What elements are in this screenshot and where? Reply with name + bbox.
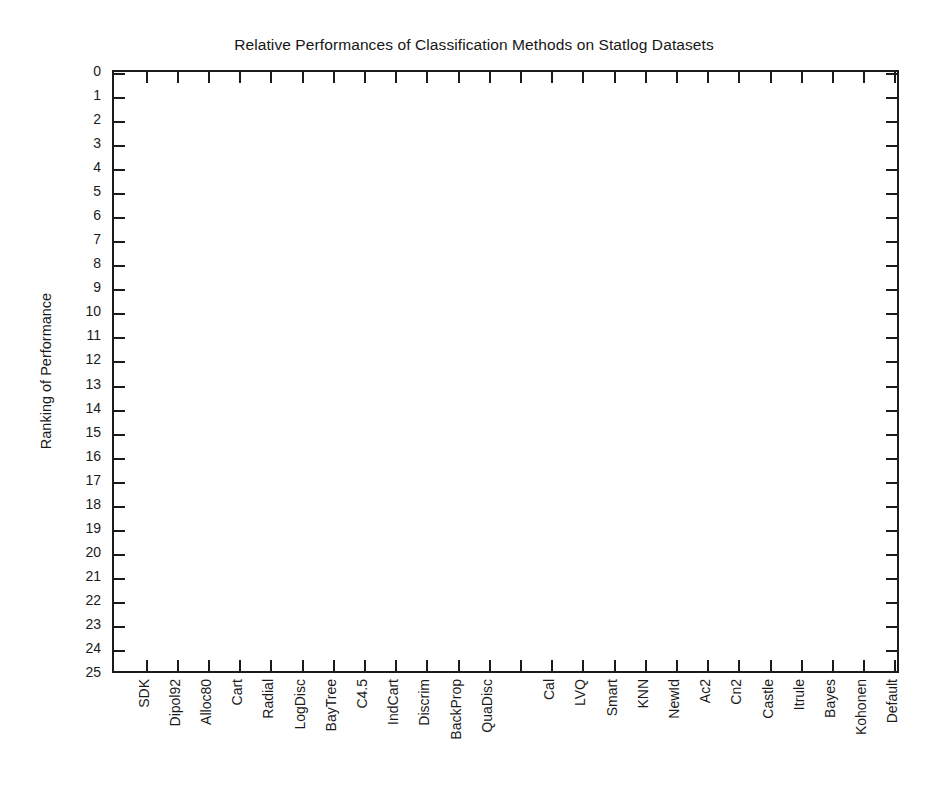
y-axis-tick-label: 5 (93, 184, 101, 198)
x-axis-tick-label: Kohonen (854, 679, 868, 735)
x-axis-tick-top (146, 72, 148, 83)
x-axis-tick (520, 660, 522, 671)
y-axis-tick-right (886, 602, 897, 604)
y-axis-tick (114, 434, 125, 436)
y-axis-tick-right (886, 482, 897, 484)
x-axis-tick (270, 660, 272, 671)
y-axis-tick-label: 22 (85, 593, 101, 607)
x-axis-tick-top (395, 72, 397, 83)
x-axis-tick (239, 660, 241, 671)
y-axis-tick-label: 24 (85, 641, 101, 655)
x-axis-tick-label: Bayes (823, 679, 837, 718)
y-axis-tick-label: 25 (85, 665, 101, 679)
y-axis-tick (114, 169, 125, 171)
x-axis-tick (458, 660, 460, 671)
y-axis-tick-label: 4 (93, 160, 101, 174)
y-axis-tick (114, 217, 125, 219)
x-axis-tick (582, 660, 584, 671)
y-axis-tick-right (886, 337, 897, 339)
y-axis-tick-label: 1 (93, 88, 101, 102)
x-axis-tick-label: KNN (636, 679, 650, 709)
x-axis-tick-top (302, 72, 304, 83)
x-axis-tick-label: Itrule (792, 679, 806, 710)
x-axis-tick-top (582, 72, 584, 83)
x-axis-tick (707, 660, 709, 671)
y-axis-tick-right (886, 169, 897, 171)
x-axis-tick-label: Ac2 (698, 679, 712, 703)
x-axis-tick-top (707, 72, 709, 83)
y-axis-tick-label: 9 (93, 280, 101, 294)
x-axis-tick-label: SDK (137, 679, 151, 708)
y-axis-tick-label: 12 (85, 352, 101, 366)
x-axis-tick-label: Castle (761, 679, 775, 719)
x-axis-tick-top (239, 72, 241, 83)
x-axis-tick-label: Alloc80 (199, 679, 213, 725)
y-axis-tick-right (886, 97, 897, 99)
y-axis-tick (114, 193, 125, 195)
x-axis-tick-label: NewId (667, 679, 681, 719)
x-axis-tick-label: LVQ (573, 679, 587, 706)
x-axis-tick-label: BackProp (449, 679, 463, 740)
x-axis-tick (645, 660, 647, 671)
x-axis-tick-top (270, 72, 272, 83)
x-axis-tick (738, 660, 740, 671)
x-axis-tick (801, 660, 803, 671)
y-axis-tick-label: 20 (85, 545, 101, 559)
y-axis-tick-label: 19 (85, 521, 101, 535)
y-axis-tick (114, 73, 125, 75)
x-axis-tick-label: C4.5 (355, 679, 369, 709)
x-axis-tick-top (863, 72, 865, 83)
plot-area (114, 72, 897, 671)
x-axis-tick-label: IndCart (386, 679, 400, 725)
y-axis-tick-right (886, 289, 897, 291)
y-axis-tick-right (886, 554, 897, 556)
y-axis-tick (114, 121, 125, 123)
x-axis-tick-labels: SDKDipol92Alloc80CartRadialLogDiscBayTre… (112, 679, 899, 799)
y-axis-tick (114, 289, 125, 291)
x-axis-tick-label: Radial (261, 679, 275, 719)
y-axis-tick-label: 11 (86, 328, 101, 342)
x-axis-tick (832, 660, 834, 671)
x-axis-tick-top (177, 72, 179, 83)
y-axis-tick-right (886, 145, 897, 147)
y-axis-tick-right (886, 386, 897, 388)
y-axis-tick-right (886, 410, 897, 412)
y-axis-tick-right (886, 313, 897, 315)
x-axis-tick (614, 660, 616, 671)
y-axis-tick-label: 17 (85, 473, 101, 487)
x-axis-tick-top (770, 72, 772, 83)
y-axis-tick-label: 7 (93, 232, 101, 246)
x-axis-tick (426, 660, 428, 671)
x-axis-tick-top (801, 72, 803, 83)
y-axis-tick-label: 13 (85, 377, 101, 391)
x-axis-tick-top (333, 72, 335, 83)
y-axis-tick-right (886, 578, 897, 580)
x-axis-tick-label: Cal (542, 679, 556, 700)
x-axis-tick-label: Default (885, 679, 899, 723)
x-axis-tick-top (645, 72, 647, 83)
y-axis-tick-right (886, 458, 897, 460)
y-axis-tick-label: 8 (93, 256, 101, 270)
x-axis-tick (551, 660, 553, 671)
y-axis-tick-right (886, 121, 897, 123)
x-axis-tick-top (551, 72, 553, 83)
x-axis-tick-top (489, 72, 491, 83)
y-axis-tick (114, 554, 125, 556)
y-axis-tick (114, 578, 125, 580)
y-axis-tick-label: 14 (85, 401, 101, 415)
y-axis-tick-right (886, 361, 897, 363)
chart-title: Relative Performances of Classification … (0, 36, 948, 54)
x-axis-tick-top (364, 72, 366, 83)
y-axis-tick (114, 506, 125, 508)
y-axis-tick-right (886, 193, 897, 195)
x-axis-tick (676, 660, 678, 671)
x-axis-tick-label: Cart (230, 679, 244, 705)
x-axis-tick-top (426, 72, 428, 83)
y-axis-tick-label: 0 (93, 64, 101, 78)
y-axis-tick (114, 482, 125, 484)
y-axis-tick-label: 15 (85, 425, 101, 439)
x-axis-tick (333, 660, 335, 671)
x-axis-tick-label: Cn2 (729, 679, 743, 705)
plot-frame (112, 70, 899, 673)
y-axis-tick-right (886, 217, 897, 219)
